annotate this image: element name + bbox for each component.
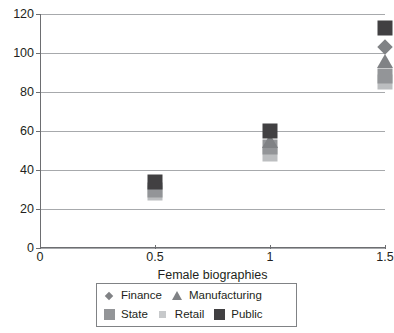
x-tick-mark bbox=[385, 245, 386, 249]
legend-marker-shape bbox=[172, 291, 182, 300]
x-tick-mark bbox=[155, 245, 156, 249]
x-axis-title: Female biographies bbox=[40, 268, 385, 282]
data-point-manufacturing bbox=[377, 54, 393, 68]
data-point-public bbox=[148, 174, 163, 189]
legend-label: State bbox=[121, 309, 148, 321]
legend-label: Manufacturing bbox=[189, 290, 262, 302]
gridline bbox=[40, 209, 385, 210]
legend-swatch-square-icon bbox=[101, 308, 117, 322]
legend-item-finance[interactable]: Finance bbox=[101, 286, 162, 305]
y-tick-label: 100 bbox=[13, 47, 40, 60]
x-tick-label: 0.5 bbox=[146, 251, 163, 264]
x-axis-line bbox=[40, 247, 385, 248]
y-tick-label: 60 bbox=[20, 125, 40, 138]
legend-label: Retail bbox=[175, 309, 204, 321]
x-tick-label: 0 bbox=[37, 251, 44, 264]
legend-marker-shape bbox=[105, 291, 113, 299]
legend-marker-shape bbox=[104, 309, 115, 320]
legend-swatch-square-small-icon bbox=[155, 308, 171, 322]
legend-item-manufacturing[interactable]: Manufacturing bbox=[169, 286, 262, 305]
legend-marker-shape bbox=[214, 309, 225, 320]
chart-legend: FinanceManufacturingStateRetailPublic bbox=[96, 283, 297, 327]
legend-item-retail[interactable]: Retail bbox=[155, 305, 204, 324]
gridline bbox=[40, 131, 385, 132]
y-tick-label: 40 bbox=[20, 164, 40, 177]
legend-label: Public bbox=[231, 309, 262, 321]
y-tick-label: 20 bbox=[20, 203, 40, 216]
x-tick-label: 1.5 bbox=[376, 251, 393, 264]
gridline bbox=[40, 53, 385, 54]
legend-swatch-square-icon bbox=[211, 308, 227, 322]
gridline bbox=[40, 170, 385, 171]
legend-item-public[interactable]: Public bbox=[211, 305, 262, 324]
x-tick-label: 1 bbox=[267, 251, 274, 264]
legend-marker-shape bbox=[159, 311, 166, 318]
legend-items: FinanceManufacturingStateRetailPublic bbox=[97, 284, 296, 326]
legend-swatch-diamond-icon bbox=[101, 289, 117, 303]
x-tick-mark bbox=[40, 245, 41, 249]
plot-area: 020406080100120 00.511.5 bbox=[40, 14, 385, 248]
gridline bbox=[40, 248, 385, 249]
x-tick-mark bbox=[270, 245, 271, 249]
y-tick-label: 80 bbox=[20, 86, 40, 99]
data-point-public bbox=[378, 20, 393, 35]
legend-label: Finance bbox=[121, 290, 162, 302]
legend-swatch-triangle-icon bbox=[169, 289, 185, 303]
data-point-state bbox=[378, 69, 393, 84]
gridline bbox=[40, 14, 385, 15]
data-point-public bbox=[263, 124, 278, 139]
y-axis-line bbox=[40, 14, 41, 248]
legend-item-state[interactable]: State bbox=[101, 305, 148, 324]
gridline bbox=[40, 92, 385, 93]
y-tick-label: 120 bbox=[13, 8, 40, 21]
